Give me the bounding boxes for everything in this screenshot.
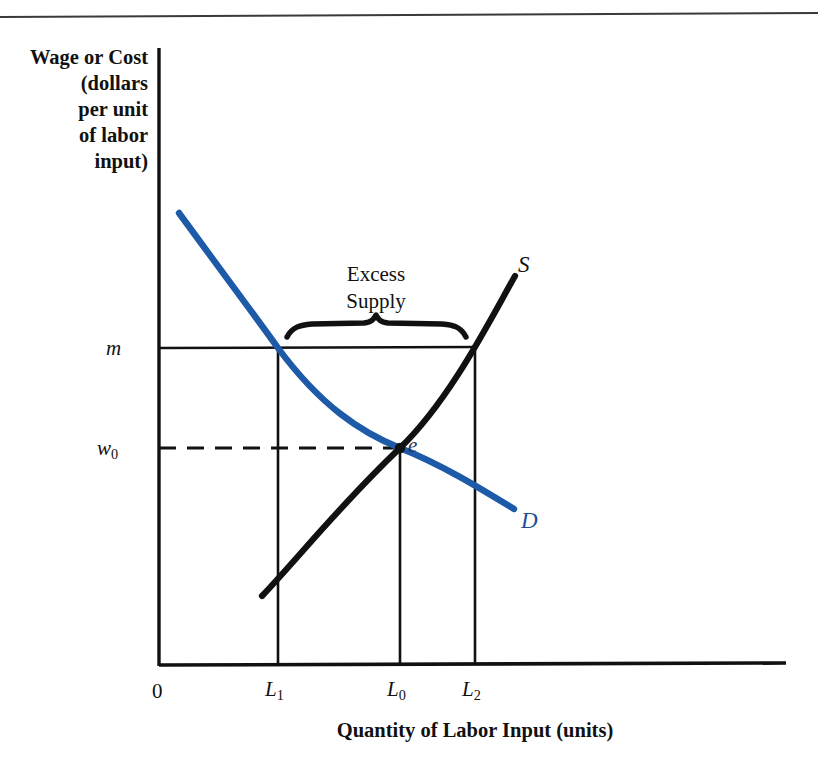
equilibrium-point-label: e [408,433,417,458]
x-tick-label-L1: L1 [265,677,284,702]
equilibrium-point-marker [395,443,405,453]
x-axis-title: Quantity of Labor Input (units) [165,719,785,742]
y-tick-label-w0: w0 [97,436,118,461]
demand-curve-label: D [521,508,538,534]
y-axis-title: Wage or Cost (dollars per unit of labor … [0,44,148,174]
figure-canvas: Wage or Cost (dollars per unit of labor … [0,0,818,770]
excess-supply-label: Excess Supply [288,261,464,315]
supply-curve-label: S [518,252,530,278]
top-rule [0,13,818,17]
x-tick-label-L0: L0 [387,677,406,702]
excess-supply-brace [287,315,466,337]
x-axis [159,663,786,665]
y-tick-label-m: m [106,336,121,361]
x-tick-label-L2: L2 [462,677,481,702]
reference-line-m [159,347,476,348]
x-tick-label-0: 0 [152,679,163,704]
